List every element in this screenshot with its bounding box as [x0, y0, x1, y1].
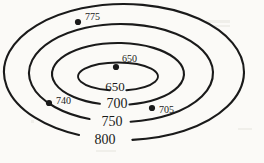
spot-elevation-marker-740	[46, 100, 52, 106]
spot-elevation-marker-650	[113, 64, 119, 70]
contour-map-figure: 650700750800 775650740705	[0, 0, 264, 163]
contour-label-750: 750	[102, 114, 123, 129]
spot-elevation-label-650: 650	[122, 53, 137, 64]
contour-label-800: 800	[95, 132, 116, 147]
spot-elevation-marker-775	[75, 19, 81, 25]
contour-label-700: 700	[107, 96, 128, 111]
spot-elevation-label-740: 740	[56, 95, 71, 106]
contour-path-group	[4, 4, 244, 140]
contour-label-650: 650	[105, 79, 125, 94]
contour-lines-group: 650700750800 775650740705	[0, 0, 264, 163]
spot-elevation-label-705: 705	[159, 104, 174, 115]
spot-elevation-marker-705	[149, 105, 155, 111]
spot-elevation-label-775: 775	[85, 11, 100, 22]
